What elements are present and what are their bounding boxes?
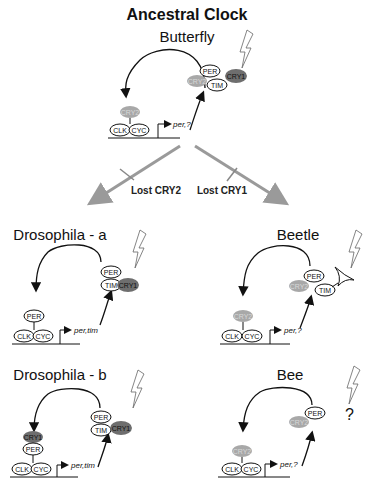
svg-text:CRY2: CRY2 — [233, 448, 252, 455]
panel-bee: Bee ? PER CRY2 CRY2 CLK CYC per,? — [218, 366, 360, 477]
diagram-title: Ancestral Clock — [127, 6, 248, 23]
panel-label-drosophila-b: Drosophila - b — [13, 366, 106, 383]
panel-butterfly: Butterfly PER CRY2 TIM CRY1 CRY2 CLK CYC… — [108, 28, 253, 138]
svg-text:CYC: CYC — [36, 333, 51, 340]
svg-text:CLK: CLK — [225, 466, 239, 473]
svg-text:PER: PER — [308, 410, 322, 417]
panel-drosophila-a: Drosophila - a PER TIM CRY1 PER CLK CYC … — [12, 226, 146, 344]
svg-text:TIM: TIM — [95, 427, 107, 434]
svg-text:CYC: CYC — [34, 466, 49, 473]
panel-label-beetle: Beetle — [277, 226, 320, 243]
svg-text:CYC: CYC — [244, 466, 259, 473]
panel-drosophila-b: Drosophila - b PER TIM CRY1 CRY1 PER CLK… — [10, 366, 144, 477]
svg-text:CLK: CLK — [17, 333, 31, 340]
gene-label-drosophila-b: per,tim — [70, 461, 95, 470]
panel-label-bee: Bee — [277, 366, 304, 383]
svg-text:TIM: TIM — [211, 82, 223, 89]
branch-arrows: Lost CRY2 Lost CRY1 — [92, 146, 284, 202]
svg-text:PER: PER — [94, 414, 108, 421]
clock-evolution-diagram: Ancestral Clock Butterfly PER CRY2 TIM C… — [0, 0, 374, 495]
svg-text:CRY2: CRY2 — [121, 109, 140, 116]
lightning-icon — [349, 230, 362, 268]
svg-text:CYC: CYC — [245, 333, 260, 340]
lightning-icon — [133, 230, 146, 268]
lightning-icon — [240, 30, 253, 68]
gene-label-bee: per,? — [279, 460, 298, 469]
svg-text:CRY1: CRY1 — [24, 434, 43, 441]
panel-label-butterfly: Butterfly — [159, 28, 215, 45]
svg-text:TIM: TIM — [319, 287, 331, 294]
svg-text:CRY1: CRY1 — [112, 425, 131, 432]
unknown-photoreceptor-mark: ? — [345, 406, 354, 423]
svg-text:CLK: CLK — [225, 333, 239, 340]
svg-text:PER: PER — [26, 446, 40, 453]
svg-text:CRY1: CRY1 — [227, 73, 246, 80]
svg-text:TIM: TIM — [105, 282, 117, 289]
gene-label-butterfly: per,? — [172, 120, 191, 129]
svg-text:PER: PER — [27, 313, 41, 320]
svg-text:CRY2: CRY2 — [234, 313, 253, 320]
gene-label-beetle: per,? — [283, 326, 302, 335]
svg-text:CRY2: CRY2 — [188, 78, 207, 85]
svg-text:CLK: CLK — [113, 127, 127, 134]
svg-text:CRY2: CRY2 — [290, 283, 309, 290]
lightning-icon — [347, 366, 360, 404]
lightning-icon — [131, 370, 144, 408]
svg-text:CYC: CYC — [132, 127, 147, 134]
panel-beetle: Beetle PER CRY2 TIM CRY2 CLK CYC per,? — [220, 226, 362, 344]
svg-text:PER: PER — [307, 273, 321, 280]
svg-text:CLK: CLK — [15, 466, 29, 473]
svg-text:PER: PER — [104, 269, 118, 276]
panel-label-drosophila-a: Drosophila - a — [13, 226, 107, 243]
svg-text:CRY2: CRY2 — [290, 419, 309, 426]
svg-text:CRY1: CRY1 — [119, 282, 138, 289]
svg-text:PER: PER — [203, 68, 217, 75]
branch-label-lost-cry1: Lost CRY1 — [197, 185, 248, 196]
gene-label-drosophila-a: per,tim — [73, 326, 98, 335]
branch-label-lost-cry2: Lost CRY2 — [131, 185, 182, 196]
